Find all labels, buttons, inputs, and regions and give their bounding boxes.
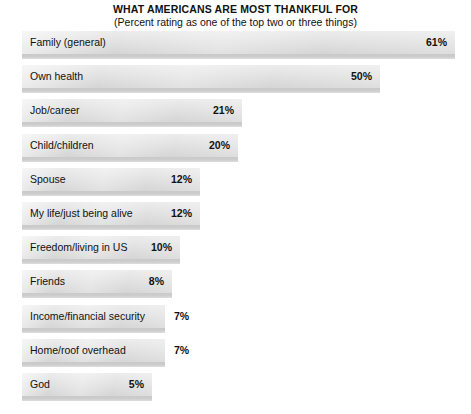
bar: Own health50% bbox=[22, 65, 380, 88]
bar: Spouse12% bbox=[22, 168, 200, 191]
bar-shadow bbox=[22, 396, 152, 401]
bar-row: Income/financial security7% bbox=[22, 305, 165, 339]
bar-shadow bbox=[22, 88, 380, 93]
bar-category-label: Friends bbox=[30, 270, 65, 293]
bar-shadow bbox=[22, 157, 238, 162]
bar-row: My life/just being alive12% bbox=[22, 202, 200, 236]
bar-value-label: 7% bbox=[174, 339, 189, 362]
bar-row: Spouse12% bbox=[22, 168, 200, 202]
bar-value-label: 10% bbox=[151, 236, 172, 259]
bar-category-label: Freedom/living in US bbox=[30, 236, 127, 259]
bar-value-label: 8% bbox=[149, 270, 164, 293]
bar: Income/financial security7% bbox=[22, 305, 165, 328]
bar-category-label: God bbox=[30, 373, 50, 396]
bar: Family (general)61% bbox=[22, 31, 455, 54]
bar-category-label: My life/just being alive bbox=[30, 202, 133, 225]
bar-row: Friends8% bbox=[22, 270, 172, 304]
bar-value-label: 12% bbox=[171, 168, 192, 191]
bar: Home/roof overhead7% bbox=[22, 339, 165, 362]
bar-shadow bbox=[22, 54, 455, 59]
bar-row: Own health50% bbox=[22, 65, 380, 99]
bar-value-label: 50% bbox=[351, 65, 372, 88]
bar-value-label: 5% bbox=[129, 373, 144, 396]
bar-value-label: 20% bbox=[209, 134, 230, 157]
bar: Job/career21% bbox=[22, 99, 242, 122]
bar-row: Home/roof overhead7% bbox=[22, 339, 165, 373]
bar-value-label: 61% bbox=[426, 31, 447, 54]
thankful-bar-chart: WHAT AMERICANS ARE MOST THANKFUL FOR (Pe… bbox=[0, 0, 471, 414]
bar-shadow bbox=[22, 191, 200, 196]
bar-row: Family (general)61% bbox=[22, 31, 455, 65]
bar-category-label: Income/financial security bbox=[30, 305, 145, 328]
bars-area: Family (general)61%Own health50%Job/care… bbox=[0, 31, 471, 414]
bar-category-label: Home/roof overhead bbox=[30, 339, 126, 362]
chart-title-block: WHAT AMERICANS ARE MOST THANKFUL FOR (Pe… bbox=[0, 0, 471, 29]
bar: God5% bbox=[22, 373, 152, 396]
bar: Freedom/living in US10% bbox=[22, 236, 180, 259]
bar-shadow bbox=[22, 225, 200, 230]
chart-subtitle: (Percent rating as one of the top two or… bbox=[0, 16, 471, 29]
bar-shadow bbox=[22, 122, 242, 127]
chart-title: WHAT AMERICANS ARE MOST THANKFUL FOR bbox=[0, 3, 471, 16]
bar-value-label: 21% bbox=[213, 99, 234, 122]
bar-row: Freedom/living in US10% bbox=[22, 236, 180, 270]
bar-row: Job/career21% bbox=[22, 99, 242, 133]
bar-shadow bbox=[22, 293, 172, 298]
bar-value-label: 12% bbox=[171, 202, 192, 225]
bar-category-label: Job/career bbox=[30, 99, 80, 122]
bar: Child/children20% bbox=[22, 134, 238, 157]
bar-row: Child/children20% bbox=[22, 134, 238, 168]
bar-value-label: 7% bbox=[174, 305, 189, 328]
bar-category-label: Family (general) bbox=[30, 31, 106, 54]
bar-category-label: Own health bbox=[30, 65, 83, 88]
bar-category-label: Child/children bbox=[30, 134, 94, 157]
bar: My life/just being alive12% bbox=[22, 202, 200, 225]
bar-shadow bbox=[22, 328, 165, 333]
bar-shadow bbox=[22, 259, 180, 264]
bar-category-label: Spouse bbox=[30, 168, 66, 191]
bar-shadow bbox=[22, 362, 165, 367]
bar-row: God5% bbox=[22, 373, 152, 407]
bar: Friends8% bbox=[22, 270, 172, 293]
